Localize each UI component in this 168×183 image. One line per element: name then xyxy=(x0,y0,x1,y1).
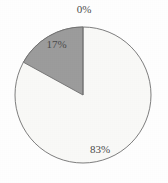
pie-label-light: 83% xyxy=(60,143,140,155)
pie-chart-figure: 0% 17% 83% xyxy=(0,0,168,183)
pie-label-gray: 17% xyxy=(0,38,113,50)
pie-label-zero: 0% xyxy=(0,3,168,15)
pie-chart-svg xyxy=(0,0,168,183)
